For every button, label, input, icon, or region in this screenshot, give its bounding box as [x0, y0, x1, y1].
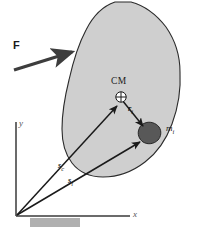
particle-mass-label: mi — [166, 124, 174, 135]
m-subscript: i — [173, 128, 175, 135]
ground-block — [30, 218, 80, 227]
si-vector-subscript: i — [71, 180, 73, 187]
particle-position-vector-label: si — [68, 176, 73, 187]
physics-diagram-canvas: F CM ri mi sc si y x — [0, 0, 208, 241]
y-axis-label: y — [19, 119, 23, 128]
r-vector-subscript: i — [131, 108, 133, 115]
force-vector-arrow — [14, 52, 72, 70]
force-label: F — [13, 40, 20, 51]
center-of-mass-marker — [116, 92, 126, 102]
x-axis-label: x — [133, 210, 137, 219]
diagram-vector-layer — [0, 0, 208, 241]
rigid-body-outline — [62, 2, 180, 177]
relative-position-vector-label: ri — [128, 104, 133, 115]
sc-vector-subscript: c — [61, 165, 64, 172]
cm-position-vector-label: sc — [58, 161, 64, 172]
center-of-mass-label: CM — [111, 77, 126, 87]
